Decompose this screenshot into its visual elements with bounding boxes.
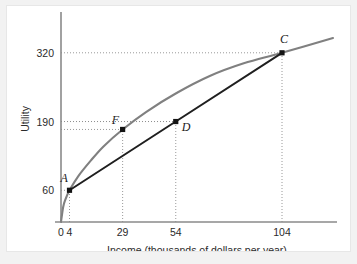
figure-root: AFDC 042954104 60190320 Income (thousand… [0,0,357,264]
y-tick-labels-group: 60190320 [36,47,54,196]
x-tick-labels-group: 042954104 [58,226,291,238]
x-tick-label: 54 [170,226,182,238]
x-tick-label: 0 [58,226,64,238]
x-tick-label: 4 [67,226,73,238]
point-label-a: A [60,171,69,185]
x-tick-label: 29 [117,226,129,238]
x-tick-label: 104 [273,226,291,238]
point-label-f: F [111,113,120,127]
data-point-marker [67,188,72,193]
data-point-marker [279,50,284,55]
data-point-marker [120,127,125,132]
y-tick-label: 190 [36,116,54,128]
point-labels-group: AFDC [60,32,290,185]
figure-panel: AFDC 042954104 60190320 Income (thousand… [7,6,350,251]
y-tick-label: 320 [36,47,54,59]
guide-lines-group [61,53,282,222]
point-label-c: C [280,32,289,46]
point-label-d: D [181,120,191,134]
data-point-marker [173,119,178,124]
utility-chart: AFDC 042954104 60190320 Income (thousand… [7,6,350,251]
x-axis-title: Income (thousands of dollars per year) [107,244,287,251]
y-tick-label: 60 [42,184,54,196]
y-axis-title: Utility [19,105,31,131]
utility-curve-path [61,38,333,222]
